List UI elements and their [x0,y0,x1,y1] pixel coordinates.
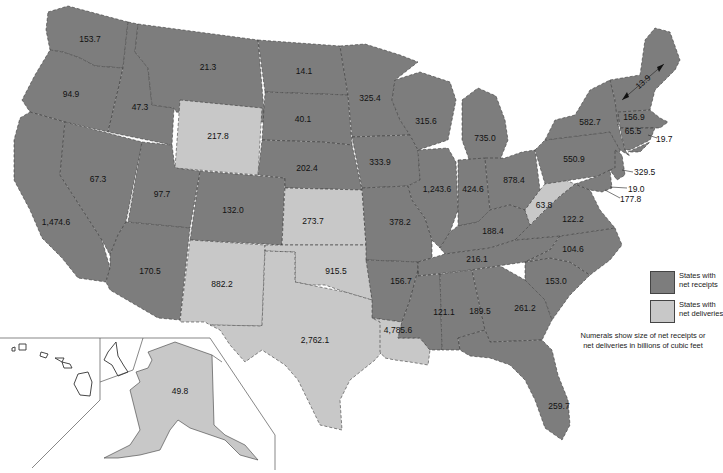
legend-receipts-line2: net receipts [679,280,718,289]
label-sc: 153.0 [545,276,567,286]
hawaii-island [74,372,92,396]
label-ri: 19.7 [656,134,673,144]
leader-md [605,190,620,198]
label-co: 132.0 [222,205,244,215]
label-ga: 261.2 [514,303,536,313]
label-ny: 582.7 [579,117,601,127]
legend-deliveries-line2: net deliveries [679,309,723,318]
legend-swatch-receipts [650,271,675,294]
label-pa: 550.9 [563,154,585,164]
state-michigan [462,88,508,162]
label-ut: 97.7 [154,189,171,199]
legend-receipts-line1: States with [679,271,718,280]
label-sd: 40.1 [295,114,312,124]
hawaii-molokai [55,358,64,362]
label-wi: 315.6 [415,116,437,126]
label-nc: 104.6 [562,244,584,254]
label-md: 177.8 [620,194,642,204]
label-ks: 273.7 [302,216,324,226]
label-wv: 63.8 [536,200,553,210]
legend-label-deliveries: States with net deliveries [679,300,723,318]
label-nm: 882.2 [211,279,233,289]
legend-deliveries-line1: States with [679,300,723,309]
label-tx: 2,762.1 [301,335,330,345]
label-ky: 188.4 [482,226,504,236]
legend-item-receipts: States with net receipts [650,271,718,294]
legend-item-deliveries: States with net deliveries [650,300,723,323]
hawaii-oahu [40,352,48,358]
label-va: 122.2 [562,214,584,224]
label-fl: 259.7 [548,401,570,411]
inset-frame-divider [32,338,100,468]
hawaii-maui [62,362,72,368]
label-ma: 156.9 [623,112,645,122]
label-az: 170.5 [139,266,161,276]
label-ar: 156.7 [390,276,412,286]
label-nd: 14.1 [296,66,313,76]
legend-swatch-deliveries [650,300,675,323]
label-or: 94.9 [63,89,80,99]
label-tn: 216.1 [466,254,488,264]
label-ok: 915.5 [325,266,347,276]
state-alaska [104,342,258,460]
label-nj: 329.5 [634,167,656,177]
label-nv: 67.3 [90,174,107,184]
label-ca: 1,474.6 [42,217,71,227]
label-mo: 378.2 [389,217,411,227]
label-mt: 21.3 [200,62,217,72]
legend-note-line2: net deliveries in billions of cubic feet [578,341,708,351]
hawaii-niihau [12,347,15,351]
label-al: 189.5 [469,306,491,316]
label-mn: 325.4 [359,93,381,103]
hawaii-kauai [19,344,26,350]
russia-fragment [104,342,128,376]
label-de: 19.0 [628,184,645,194]
alaska-canada-line [212,355,222,362]
label-ms: 121.1 [433,307,455,317]
state-kansas [282,188,366,245]
label-ak: 49.8 [172,386,189,396]
label-ia: 333.9 [369,157,391,167]
label-ne: 202.4 [296,163,318,173]
label-ct: 65.5 [625,126,642,136]
label-la: 4,785.6 [384,325,413,335]
state-florida [458,330,570,440]
leader-de [610,187,627,188]
label-id: 47.3 [132,102,149,112]
legend-note-line1: Numerals show size of net receipts or [578,331,708,341]
inset-frame-divider-2 [100,338,143,382]
label-wa: 153.7 [79,34,101,44]
label-wy: 217.8 [207,131,229,141]
legend-note: Numerals show size of net receipts or ne… [578,331,708,350]
label-mi: 735.0 [474,133,496,143]
label-il: 1,243.6 [423,184,452,194]
label-oh: 878.4 [503,175,525,185]
label-in: 424.6 [462,184,484,194]
legend-label-receipts: States with net receipts [679,271,718,289]
